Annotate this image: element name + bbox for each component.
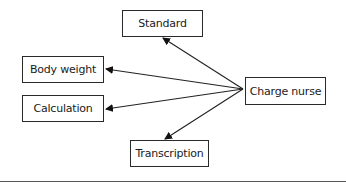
- bottom-divider: [0, 181, 346, 182]
- node-label: Standard: [138, 17, 186, 30]
- node-label: Calculation: [33, 102, 92, 115]
- arrow-to-body-weight: [106, 69, 243, 89]
- node-standard: Standard: [122, 10, 203, 37]
- node-calculation: Calculation: [22, 95, 104, 122]
- arrow-to-calculation: [106, 89, 243, 109]
- arrow-to-standard: [163, 38, 243, 89]
- node-body-weight: Body weight: [22, 56, 104, 83]
- arrow-to-transcription: [165, 89, 243, 139]
- node-label: Charge nurse: [250, 85, 322, 98]
- node-label: Body weight: [30, 63, 96, 76]
- node-transcription: Transcription: [130, 140, 209, 167]
- node-charge-nurse: Charge nurse: [245, 77, 326, 105]
- node-label: Transcription: [135, 147, 203, 160]
